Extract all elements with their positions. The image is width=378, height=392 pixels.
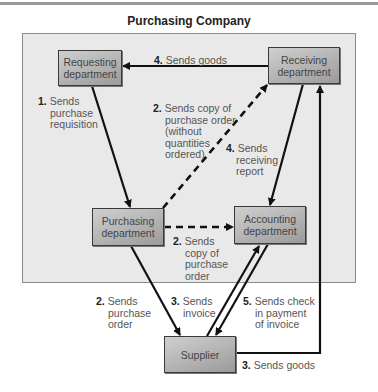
label-requisition: 1. Sends purchase requisition xyxy=(38,96,98,131)
label-invoice: 3. Sends invoice xyxy=(171,296,216,319)
label-po-copy-to-receiving: 2. Sends copy of purchase order (without… xyxy=(153,103,236,161)
label-goods-to-requesting: 4. Sends goods xyxy=(154,55,227,67)
supplier-box: Supplier xyxy=(164,336,236,373)
accounting-department-box: Accountingdepartment xyxy=(234,206,306,244)
receiving-department-box: Receivingdepartment xyxy=(268,47,340,84)
label-check: 5. Sends check in payment of invoice xyxy=(243,296,315,331)
requesting-department-box: Requestingdepartment xyxy=(58,50,122,86)
label-po-to-supplier: 2. Sends purchase order xyxy=(96,296,151,331)
purchasing-department-box: Purchasingdepartment xyxy=(92,208,164,246)
label-goods-to-receiving: 3. Sends goods xyxy=(242,360,315,372)
label-po-copy-to-accounting: 2. Sends copy of purchase order xyxy=(173,236,228,282)
label-receiving-report: 4. Sends receiving report xyxy=(226,143,278,178)
